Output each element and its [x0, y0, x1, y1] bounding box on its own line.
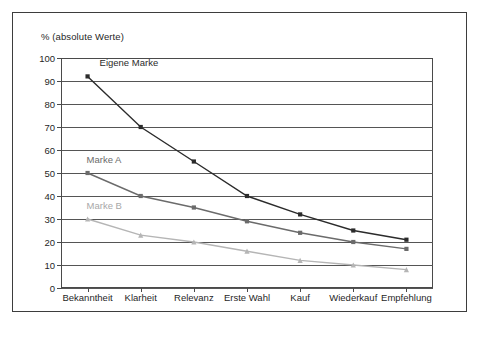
x-axis-label-klarheit: Klarheit	[125, 292, 157, 303]
data-point-eigene-marke-6	[404, 238, 408, 242]
x-axis-label-bekanntheit: Bekanntheit	[62, 292, 112, 303]
plot-area	[61, 58, 433, 288]
data-point-marke-a-6	[404, 247, 408, 251]
series-label-marke-a: Marke A	[87, 154, 122, 165]
data-point-marke-a-3	[245, 219, 249, 223]
chart-figure: % (absolute Werte) 100908070605040302010…	[0, 0, 483, 340]
y-tick-label: 10	[33, 260, 55, 271]
y-tick-label: 90	[33, 76, 55, 87]
data-point-marke-a-2	[192, 205, 196, 209]
x-axis-label-wiederkauf: Wiederkauf	[329, 292, 377, 303]
data-point-marke-a-0	[85, 171, 89, 175]
data-point-eigene-marke-4	[298, 212, 302, 216]
x-axis-label-empfehlung: Empfehlung	[381, 292, 432, 303]
x-axis-label-erste-wahl: Erste Wahl	[224, 292, 270, 303]
y-axis-tick-labels: 1009080706050403020100	[31, 58, 55, 288]
y-tick-label: 30	[33, 214, 55, 225]
data-point-eigene-marke-3	[245, 194, 249, 198]
y-tick-label: 70	[33, 122, 55, 133]
y-tick-label: 100	[33, 53, 55, 64]
series-line-marke-a	[88, 173, 407, 249]
y-tick-label: 40	[33, 191, 55, 202]
series-line-marke-b	[88, 219, 407, 270]
data-point-eigene-marke-0	[85, 74, 89, 78]
data-point-marke-a-5	[351, 240, 355, 244]
y-tick-label: 50	[33, 168, 55, 179]
data-point-eigene-marke-5	[351, 228, 355, 232]
series-line-eigene-marke	[88, 76, 407, 239]
y-tick-label: 80	[33, 99, 55, 110]
y-tick-label: 60	[33, 145, 55, 156]
data-point-eigene-marke-1	[139, 125, 143, 129]
series-layer	[61, 58, 433, 288]
y-tick-label: 0	[33, 283, 55, 294]
y-axis-caption: % (absolute Werte)	[41, 31, 124, 42]
data-point-marke-a-4	[298, 231, 302, 235]
series-label-eigene-marke: Eigene Marke	[100, 57, 159, 68]
data-point-eigene-marke-2	[192, 159, 196, 163]
x-axis-label-kauf: Kauf	[290, 292, 310, 303]
y-tick-mark	[57, 288, 62, 289]
data-point-marke-a-1	[139, 194, 143, 198]
y-tick-label: 20	[33, 237, 55, 248]
x-axis-label-relevanz: Relevanz	[174, 292, 214, 303]
x-axis-tick-labels: BekanntheitKlarheitRelevanzErste WahlKau…	[61, 292, 433, 308]
series-label-marke-b: Marke B	[87, 200, 122, 211]
